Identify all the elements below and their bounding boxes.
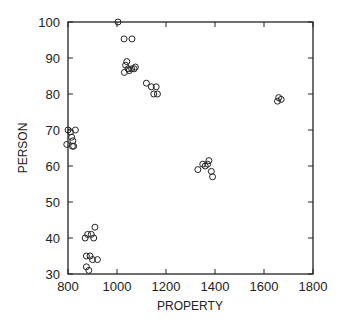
x-tick-label: 1600 xyxy=(250,279,279,294)
scatter-plot: 80010001200140016001800 3040506070809010… xyxy=(0,0,343,328)
data-point xyxy=(129,36,135,42)
data-point xyxy=(124,59,130,65)
data-point xyxy=(210,174,216,180)
data-point xyxy=(69,134,75,140)
data-point xyxy=(195,167,201,173)
data-point xyxy=(132,64,138,70)
y-tick-label: 40 xyxy=(46,231,60,246)
data-points xyxy=(64,19,284,273)
data-point xyxy=(206,158,212,164)
data-point xyxy=(154,91,160,97)
y-tick-label: 50 xyxy=(46,195,60,210)
y-tick-label: 80 xyxy=(46,87,60,102)
data-point xyxy=(121,36,127,42)
x-tick-label: 800 xyxy=(57,279,79,294)
y-axis-ticks: 30405060708090100 xyxy=(38,15,313,282)
plot-frame xyxy=(68,22,313,274)
x-tick-label: 1400 xyxy=(201,279,230,294)
x-tick-label: 1200 xyxy=(152,279,181,294)
y-tick-label: 70 xyxy=(46,123,60,138)
y-tick-label: 60 xyxy=(46,159,60,174)
x-axis-ticks: 80010001200140016001800 xyxy=(57,22,327,294)
data-point xyxy=(64,141,70,147)
y-tick-label: 100 xyxy=(38,15,60,30)
y-tick-label: 90 xyxy=(46,51,60,66)
x-tick-label: 1800 xyxy=(299,279,328,294)
y-tick-label: 30 xyxy=(46,267,60,282)
y-axis-title: PERSON xyxy=(16,123,30,174)
data-point xyxy=(274,98,280,104)
x-tick-label: 1000 xyxy=(103,279,132,294)
data-point xyxy=(92,224,98,230)
x-axis-title: PROPERTY xyxy=(157,299,223,313)
